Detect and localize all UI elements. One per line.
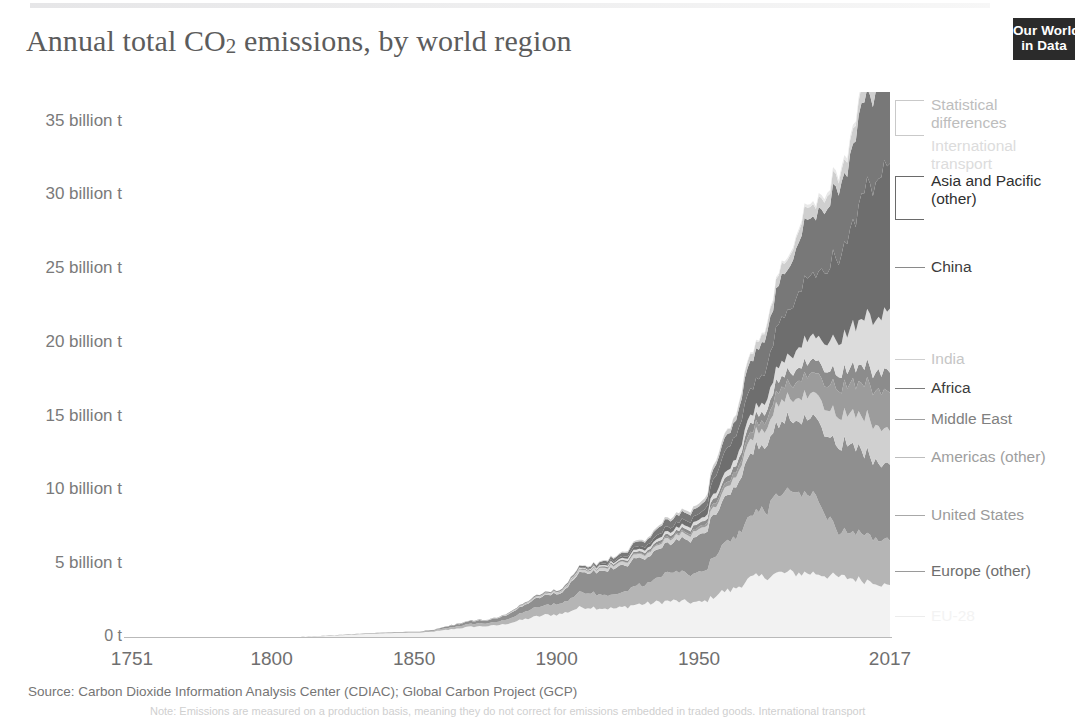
- y-tick-label: 15 billion t: [2, 406, 122, 426]
- x-tick-label: 1850: [393, 648, 435, 670]
- title-main: Annual total CO: [26, 24, 226, 57]
- legend-label: Europe (other): [931, 562, 1083, 580]
- footnote-note: Note: Emissions are measured on a produc…: [150, 705, 1070, 717]
- legend-label: EU-28: [931, 607, 1083, 625]
- legend-label: Africa: [931, 379, 1083, 397]
- x-axis-stub: [124, 637, 134, 638]
- owid-logo[interactable]: Our World in Data: [1013, 18, 1075, 60]
- legend-line-connector: [895, 616, 925, 617]
- y-tick-label: 0 t: [2, 627, 122, 645]
- y-tick-label: 30 billion t: [2, 184, 122, 204]
- legend-label: India: [931, 350, 1083, 368]
- top-strip: [30, 3, 990, 8]
- legend-line-connector: [895, 457, 925, 458]
- legend-label: China: [931, 258, 1083, 276]
- legend-bracket-connector: [895, 176, 924, 220]
- stacked-area-svg: [132, 92, 890, 638]
- x-tick-label: 2017: [869, 648, 911, 670]
- legend-label: Middle East: [931, 410, 1083, 428]
- y-tick-label: 5 billion t: [2, 553, 122, 573]
- y-tick-label: 25 billion t: [2, 258, 122, 278]
- source-note: Source: Carbon Dioxide Information Analy…: [28, 684, 577, 699]
- x-axis-line: [132, 637, 892, 638]
- x-tick-label: 1900: [535, 648, 577, 670]
- logo-line-1: Our World: [1013, 23, 1075, 38]
- plot-area: [132, 92, 890, 638]
- area-band: [132, 569, 890, 638]
- legend-label: Americas (other): [931, 448, 1083, 466]
- page-title: Annual total CO2 emissions, by world reg…: [26, 23, 572, 62]
- chart-legend: Statistical differencesInternational tra…: [893, 88, 1083, 638]
- x-tick-label: 1950: [678, 648, 720, 670]
- y-tick-label: 20 billion t: [2, 332, 122, 352]
- legend-line-connector: [895, 419, 925, 420]
- legend-line-connector: [895, 515, 925, 516]
- legend-line-connector: [895, 359, 925, 360]
- legend-line-connector: [895, 267, 925, 268]
- legend-label: Statistical differences: [931, 96, 1083, 131]
- legend-line-connector: [895, 388, 925, 389]
- legend-label: Asia and Pacific (other): [931, 172, 1083, 207]
- x-tick-label: 1800: [250, 648, 292, 670]
- x-tick-label: 1751: [111, 648, 153, 670]
- title-subscript: 2: [226, 34, 237, 58]
- legend-label: United States: [931, 506, 1083, 524]
- y-tick-label: 35 billion t: [2, 111, 122, 131]
- legend-bracket-connector: [895, 100, 924, 136]
- legend-line-connector: [895, 571, 925, 572]
- y-tick-label: 10 billion t: [2, 479, 122, 499]
- logo-line-2: in Data: [1013, 38, 1075, 53]
- legend-label: International transport: [931, 137, 1083, 172]
- title-rest: emissions, by world region: [236, 24, 571, 57]
